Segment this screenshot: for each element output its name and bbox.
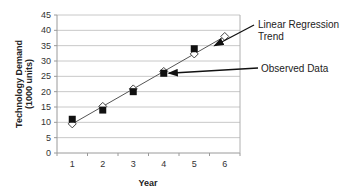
observed-point (69, 116, 76, 123)
y-tick-label: 20 (41, 87, 51, 97)
observed-point (99, 107, 106, 114)
x-tick-label: 5 (192, 159, 197, 169)
observed-arrow (169, 68, 258, 73)
x-tick-label: 6 (222, 159, 227, 169)
trend-annotation-label: Linear Regression (258, 19, 339, 30)
trend-arrow (215, 25, 254, 46)
observed-point (130, 88, 137, 95)
gridlines (57, 15, 240, 138)
y-tick-label: 0 (46, 148, 51, 158)
observed-series (69, 45, 198, 123)
x-tick-label: 2 (100, 159, 105, 169)
y-tick-label: 25 (41, 71, 51, 81)
x-axis-ticks: 123456 (57, 153, 240, 169)
observed-annotation-label: Observed Data (261, 63, 329, 74)
axes (57, 15, 240, 153)
trend-line (72, 36, 225, 123)
trend-series (68, 32, 229, 127)
y-tick-label: 40 (41, 25, 51, 35)
x-tick-label: 3 (131, 159, 136, 169)
y-tick-label: 45 (41, 10, 51, 20)
y-axis-title: Technology Demand(1000 units) (14, 40, 34, 128)
x-tick-label: 1 (70, 159, 75, 169)
y-tick-label: 30 (41, 56, 51, 66)
observed-point (160, 70, 167, 77)
trend-annotation-label: Trend (258, 31, 284, 42)
y-tick-label: 15 (41, 102, 51, 112)
y-axis-title-line: (1000 units) (24, 59, 34, 109)
observed-point (191, 45, 198, 52)
y-tick-label: 35 (41, 41, 51, 51)
x-tick-label: 4 (161, 159, 166, 169)
y-axis-title-line: Technology Demand (14, 40, 24, 128)
regression-chart: 051015202530354045 123456 Linear Regress… (0, 0, 355, 194)
y-axis-ticks: 051015202530354045 (41, 10, 57, 158)
y-tick-label: 10 (41, 117, 51, 127)
x-axis-title: Year (138, 178, 158, 188)
y-tick-label: 5 (46, 133, 51, 143)
